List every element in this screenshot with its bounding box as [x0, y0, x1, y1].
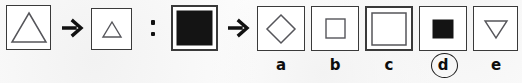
option-box-a[interactable] [257, 6, 305, 51]
option-box-b[interactable] [311, 6, 359, 51]
square-large-solid-icon [173, 7, 216, 49]
diamond-outline-icon [258, 7, 304, 50]
visual-analogy-puzzle: a b c d [0, 0, 522, 83]
prompt-term-a1-box [6, 5, 51, 50]
option-label-b-text: b [330, 56, 341, 74]
right-arrow-icon [61, 16, 85, 40]
option-label-c-text: c [385, 56, 394, 74]
prompt-term-a2-box [91, 8, 132, 50]
colon-dot-bottom [151, 32, 156, 37]
square-small-outline-icon [312, 7, 358, 50]
square-small-solid-icon [420, 7, 466, 50]
triangle-up-small-outline-icon [92, 9, 131, 49]
colon-icon [145, 14, 161, 42]
option-label-c[interactable]: c [365, 55, 413, 75]
prompt-term-b1-box [171, 5, 218, 51]
option-label-b[interactable]: b [311, 55, 359, 75]
option-label-a[interactable]: a [257, 55, 305, 75]
right-arrow-icon [227, 16, 251, 40]
option-box-c[interactable] [365, 6, 413, 51]
option-box-e[interactable] [473, 6, 518, 51]
triangle-down-outline-icon [474, 7, 517, 50]
colon-dot-top [151, 20, 156, 25]
option-label-e-text: e [491, 56, 501, 74]
triangle-up-large-outline-icon [7, 6, 50, 49]
option-label-d[interactable]: d [419, 55, 467, 75]
option-label-a-text: a [276, 56, 286, 74]
option-box-d[interactable] [419, 6, 467, 51]
option-label-d-text: d [438, 56, 449, 74]
option-label-e[interactable]: e [472, 55, 520, 75]
square-large-outline-icon [367, 8, 411, 49]
